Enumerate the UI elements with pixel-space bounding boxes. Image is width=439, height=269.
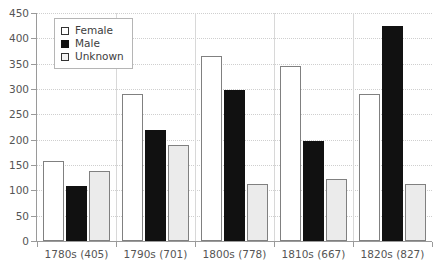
bar-female bbox=[201, 56, 222, 241]
x-tick-label: 1790s (701) bbox=[116, 249, 195, 260]
legend-item-male: Male bbox=[61, 37, 124, 50]
legend-label-male: Male bbox=[75, 38, 100, 49]
y-tick-label: 400 bbox=[1, 33, 29, 44]
y-tick-mark bbox=[31, 64, 36, 65]
bar-unknown bbox=[405, 184, 426, 241]
y-tick-label: 100 bbox=[1, 185, 29, 196]
y-axis-labels: 050100150200250300350400450 bbox=[0, 0, 29, 269]
bar-female bbox=[122, 94, 143, 241]
y-tick-mark bbox=[31, 13, 36, 14]
y-tick-mark bbox=[31, 190, 36, 191]
legend-swatch-female-icon bbox=[61, 27, 69, 35]
y-tick-label: 350 bbox=[1, 58, 29, 69]
legend-swatch-unknown-icon bbox=[61, 53, 69, 61]
bar-male bbox=[382, 26, 403, 241]
y-tick-mark bbox=[31, 114, 36, 115]
y-tick-mark bbox=[31, 89, 36, 90]
y-tick-mark bbox=[31, 216, 36, 217]
legend-swatch-male-icon bbox=[61, 40, 69, 48]
y-tick-label: 50 bbox=[1, 210, 29, 221]
chart-legend: Female Male Unknown bbox=[54, 18, 133, 69]
x-tick-mark bbox=[432, 242, 433, 247]
x-tick-mark bbox=[37, 242, 38, 247]
y-tick-mark bbox=[31, 38, 36, 39]
bar-male bbox=[145, 130, 166, 241]
bar-male bbox=[224, 90, 245, 241]
x-tick-mark bbox=[353, 242, 354, 247]
x-axis-line bbox=[36, 241, 432, 242]
bar-female bbox=[280, 66, 301, 241]
bar-unknown bbox=[326, 179, 347, 241]
y-tick-label: 250 bbox=[1, 109, 29, 120]
y-tick-mark bbox=[31, 165, 36, 166]
bar-female bbox=[43, 161, 64, 241]
x-tick-label: 1810s (667) bbox=[274, 249, 353, 260]
bar-male bbox=[66, 186, 87, 241]
bar-unknown bbox=[89, 171, 110, 241]
bar-chart: 050100150200250300350400450 Female Male … bbox=[0, 0, 439, 269]
legend-item-female: Female bbox=[61, 24, 124, 37]
bar-female bbox=[359, 94, 380, 241]
bar-male bbox=[303, 141, 324, 241]
x-tick-mark bbox=[195, 242, 196, 247]
bar-unknown bbox=[247, 184, 268, 241]
y-tick-label: 200 bbox=[1, 134, 29, 145]
y-tick-mark bbox=[31, 241, 36, 242]
legend-label-unknown: Unknown bbox=[75, 51, 124, 62]
y-tick-label: 450 bbox=[1, 8, 29, 19]
legend-label-female: Female bbox=[75, 25, 113, 36]
x-tick-label: 1800s (778) bbox=[195, 249, 274, 260]
bar-unknown bbox=[168, 145, 189, 241]
y-tick-mark bbox=[31, 140, 36, 141]
y-tick-label: 0 bbox=[1, 236, 29, 247]
x-tick-label: 1780s (405) bbox=[37, 249, 116, 260]
legend-item-unknown: Unknown bbox=[61, 50, 124, 63]
y-tick-label: 150 bbox=[1, 160, 29, 171]
y-tick-label: 300 bbox=[1, 84, 29, 95]
x-tick-mark bbox=[274, 242, 275, 247]
x-tick-mark bbox=[116, 242, 117, 247]
x-tick-label: 1820s (827) bbox=[353, 249, 432, 260]
